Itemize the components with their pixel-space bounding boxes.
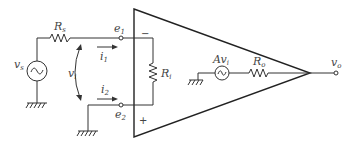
label-Ro: Ro [252, 55, 266, 69]
input-resistor-branch [123, 38, 157, 105]
label-i2: i2 [101, 83, 110, 97]
noninverting-sign: + [139, 115, 147, 126]
current-arrow-i1 [97, 45, 118, 50]
ground-icon [188, 80, 203, 85]
label-Rs: Rs [53, 20, 66, 34]
ground-icon [77, 131, 98, 136]
ground-icon [26, 103, 47, 108]
label-Ri: Ri [160, 67, 172, 81]
ac-source-icon [27, 61, 47, 81]
current-arrow-i2 [97, 97, 118, 102]
dependent-source-icon [215, 66, 229, 80]
label-Avi: Avi [212, 53, 229, 67]
label-e2: e2 [115, 108, 127, 122]
output-terminal [334, 71, 338, 75]
terminal-e2 [119, 103, 123, 107]
input-resistor [149, 63, 157, 82]
label-vs: vs [14, 58, 24, 72]
output-wire [310, 71, 338, 75]
terminal-e1 [119, 36, 123, 40]
output-resistor [249, 69, 268, 77]
label-vo: vo [331, 56, 341, 70]
inverting-sign: − [141, 28, 149, 39]
label-e1: e1 [114, 22, 125, 36]
source-resistor [50, 34, 70, 42]
op-amp-circuit-diagram: vs Rs vi i1 i2 e1 e2 Ri Avi Ro vo − + [0, 0, 356, 151]
label-i1: i1 [100, 50, 108, 64]
